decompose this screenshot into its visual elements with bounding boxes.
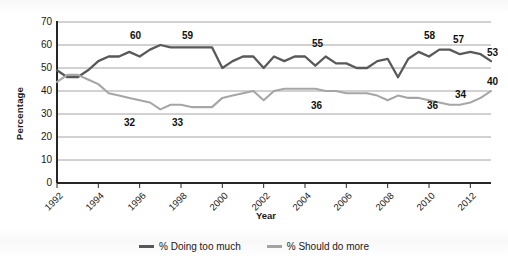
data-label-should-do-more: 36 [311,100,322,111]
y-tick-label: 0 [18,178,52,188]
legend-label-should-do-more: % Should do more [287,241,369,252]
series-line-should-do-more [57,75,491,110]
data-label-should-do-more: 36 [427,100,438,111]
legend-swatch-should-do-more [267,245,282,248]
y-tick-label: 40 [18,86,52,96]
legend-item-should-do-more: % Should do more [267,241,369,252]
data-label-doing-too-much: 53 [487,47,498,58]
data-label-should-do-more: 34 [455,89,466,100]
data-label-doing-too-much: 60 [130,30,141,41]
y-tick-label: 70 [18,17,52,27]
data-label-should-do-more: 40 [487,76,498,87]
chart-legend: % Doing too much % Should do more [0,241,508,252]
series-line-doing-too-much [57,45,491,77]
line-chart-figure: Percentage Year 010203040506070 19921994… [0,0,508,267]
y-tick-label: 50 [18,63,52,73]
y-tick-label: 30 [18,109,52,119]
y-tick-label: 20 [18,132,52,142]
data-label-should-do-more: 33 [172,117,183,128]
legend-item-doing-too-much: % Doing too much [139,241,241,252]
legend-label-doing-too-much: % Doing too much [159,241,241,252]
legend-swatch-doing-too-much [139,245,154,248]
y-tick-label: 60 [18,40,52,50]
data-label-doing-too-much: 55 [312,38,323,49]
y-tick-label: 10 [18,155,52,165]
data-label-doing-too-much: 58 [424,30,435,41]
data-label-doing-too-much: 57 [453,34,464,45]
data-label-should-do-more: 32 [124,117,135,128]
data-label-doing-too-much: 59 [182,30,193,41]
